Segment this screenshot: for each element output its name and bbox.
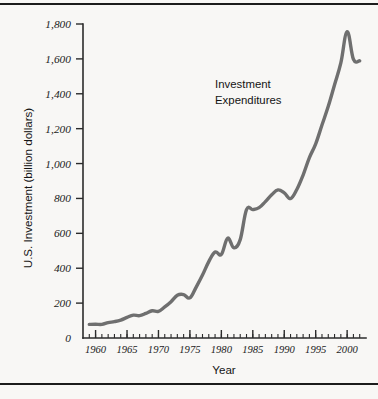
y-tick-label-800: 800	[54, 192, 71, 204]
x-tick-label-1995: 1995	[305, 344, 326, 355]
x-tick-label-1975: 1975	[179, 344, 200, 355]
y-axis-ticks	[76, 24, 83, 303]
x-tick-label-1980: 1980	[211, 344, 233, 355]
y-axis-tick-labels: 02004006008001,0001,2001,4001,6001,800	[45, 18, 71, 344]
x-tick-label-1970: 1970	[148, 344, 170, 355]
figure-container: 02004006008001,0001,2001,4001,6001,800 1…	[0, 0, 378, 399]
series-annotation-line-2: Expenditures	[215, 94, 282, 106]
x-axis-title: Year	[212, 363, 236, 376]
line-chart-plot: 02004006008001,0001,2001,4001,6001,800 1…	[0, 0, 378, 399]
y-tick-label-0: 0	[65, 332, 71, 344]
series-annotation-line-1: Investment	[215, 78, 272, 90]
y-tick-label-1000: 1,000	[45, 158, 71, 170]
x-tick-label-1985: 1985	[242, 344, 263, 355]
x-tick-label-1965: 1965	[116, 344, 137, 355]
x-tick-label-1990: 1990	[274, 344, 296, 355]
y-tick-label-1600: 1,600	[45, 53, 71, 65]
y-tick-label-600: 600	[54, 227, 71, 239]
y-tick-label-400: 400	[54, 262, 71, 274]
x-axis-tick-labels: 196019651970197519801985199019952000	[85, 344, 358, 355]
y-tick-label-1400: 1,400	[45, 88, 71, 100]
y-axis-title: U.S. Investment (billion dollars)	[21, 108, 34, 269]
x-tick-label-2000: 2000	[337, 344, 359, 355]
y-tick-label-1800: 1,800	[45, 18, 71, 30]
data-series-investment-expenditures	[89, 32, 359, 325]
x-tick-label-1960: 1960	[85, 344, 107, 355]
y-tick-label-1200: 1,200	[45, 123, 71, 135]
y-tick-label-200: 200	[54, 297, 71, 309]
